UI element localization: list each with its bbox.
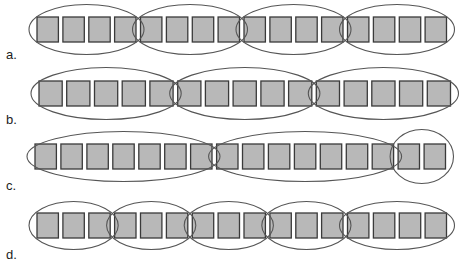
square <box>35 144 56 169</box>
square <box>372 81 395 106</box>
square <box>425 213 446 238</box>
row-d-squares <box>37 213 447 238</box>
row-c-squares <box>35 144 446 169</box>
square <box>95 81 118 106</box>
square <box>425 17 446 42</box>
square <box>344 81 367 106</box>
square <box>268 144 289 169</box>
square <box>270 17 291 42</box>
square <box>243 144 264 169</box>
square <box>61 144 82 169</box>
square <box>122 81 145 106</box>
square <box>296 213 317 238</box>
square <box>427 81 450 106</box>
square <box>373 17 394 42</box>
square <box>320 144 341 169</box>
square <box>165 144 186 169</box>
square <box>205 81 228 106</box>
square <box>39 81 62 106</box>
square <box>141 213 162 238</box>
square <box>37 17 58 42</box>
row-label-c: c. <box>6 178 16 193</box>
square <box>63 17 84 42</box>
row-label-a: a. <box>6 47 17 62</box>
square <box>296 17 317 42</box>
square <box>400 81 423 106</box>
square <box>399 17 420 42</box>
square <box>166 17 187 42</box>
square <box>218 213 239 238</box>
square <box>37 213 58 238</box>
square <box>87 144 108 169</box>
square <box>373 213 394 238</box>
row-label-d: d. <box>6 247 17 262</box>
square <box>294 144 315 169</box>
grouping-diagram <box>0 0 467 264</box>
square <box>89 17 110 42</box>
square <box>424 144 445 169</box>
square <box>346 144 367 169</box>
square <box>63 213 84 238</box>
square <box>399 213 420 238</box>
row-label-b: b. <box>6 112 17 127</box>
square <box>67 81 90 106</box>
row-a-squares <box>37 17 447 42</box>
square <box>113 144 134 169</box>
row-b-squares <box>39 81 451 106</box>
square <box>261 81 284 106</box>
square <box>233 81 256 106</box>
square <box>192 17 213 42</box>
square <box>139 144 160 169</box>
